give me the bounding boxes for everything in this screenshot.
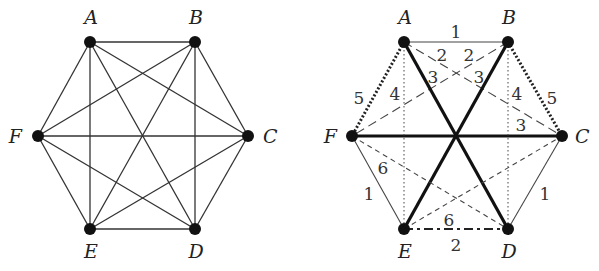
edge-weight-FC: 3 [516, 115, 527, 135]
vertex-label-D: D [187, 240, 203, 262]
vertex-label-B: B [501, 6, 516, 28]
edge-CE [90, 136, 248, 229]
vertex-label-C: C [575, 125, 590, 147]
edge-weight-AE: 4 [390, 84, 401, 104]
vertex-B [502, 36, 514, 48]
vertex-label-A: A [396, 6, 412, 28]
graph-diagram-canvas: ABCDEF 111222333445566 ABCDEF [0, 0, 599, 271]
edges-layer [352, 42, 562, 229]
edge-weight-BD: 4 [512, 84, 523, 104]
edge-weight-BF: 2 [464, 45, 475, 65]
edge-EC [404, 136, 562, 229]
edge-CD [508, 136, 562, 229]
vertex-label-A: A [82, 6, 98, 28]
edge-CD [195, 136, 248, 229]
edge-weight-AF: 5 [354, 88, 365, 108]
edge-DF [38, 136, 195, 229]
vertex-label-F: F [323, 125, 338, 147]
vertex-label-F: F [8, 125, 23, 147]
vertex-E [84, 223, 96, 235]
edge-EF [38, 136, 90, 229]
vertex-label-D: D [500, 240, 516, 262]
edge-weight-BE: 3 [474, 67, 485, 87]
vertex-C [242, 130, 254, 142]
edge-weight-CD: 1 [540, 184, 551, 204]
edge-weight-AC: 2 [437, 45, 448, 65]
edge-weight-ED: 2 [451, 235, 462, 255]
vertex-label-B: B [188, 6, 203, 28]
vertex-D [502, 223, 514, 235]
vertex-A [84, 36, 96, 48]
edge-weight-FE: 1 [364, 184, 375, 204]
vertex-label-C: C [263, 125, 278, 147]
vertex-A [398, 36, 410, 48]
edge-weight-AB: 1 [451, 22, 462, 42]
edges-layer [38, 42, 248, 229]
vertex-F [346, 130, 358, 142]
edge-FE [352, 136, 404, 229]
edge-colored-k6: 111222333445566 ABCDEF [323, 6, 590, 262]
edge-BF [38, 42, 195, 136]
vertex-B [189, 36, 201, 48]
edge-AF [38, 42, 90, 136]
edge-FD [352, 136, 508, 229]
edge-weight-EC: 6 [444, 210, 455, 230]
edge-weight-BC: 5 [547, 88, 558, 108]
vertex-F [32, 130, 44, 142]
edge-weight-FD: 6 [378, 158, 389, 178]
vertex-C [556, 130, 568, 142]
vertex-label-E: E [397, 240, 412, 262]
complete-graph-k6: ABCDEF [8, 6, 278, 262]
edge-weight-AD: 3 [428, 67, 439, 87]
vertex-E [398, 223, 410, 235]
vertex-label-E: E [83, 240, 98, 262]
vertex-D [189, 223, 201, 235]
edge-BC [195, 42, 248, 136]
